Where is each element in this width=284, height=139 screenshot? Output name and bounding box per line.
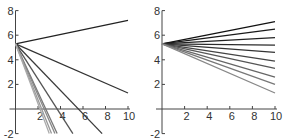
chart-panel-2: -22468246810 <box>150 5 282 139</box>
y-tick-label: 6 <box>154 29 160 41</box>
y-tick-label: 8 <box>154 5 160 17</box>
series-line1 <box>16 20 129 43</box>
y-tick-label: 8 <box>7 5 13 17</box>
x-tick-label: 8 <box>104 110 110 122</box>
x-tick-label: 4 <box>206 110 212 122</box>
y-tick-label: -2 <box>150 128 160 139</box>
series-line6 <box>162 44 275 61</box>
y-tick-label: -2 <box>4 128 14 139</box>
y-tick-label: 4 <box>154 54 160 66</box>
x-tick-label: 10 <box>123 110 135 122</box>
chart-panel-1: -22468246810 <box>4 5 135 139</box>
y-tick-label: 6 <box>7 29 13 41</box>
x-tick-label: 2 <box>184 110 190 122</box>
x-tick-label: 6 <box>229 110 235 122</box>
x-tick-label: 10 <box>270 110 282 122</box>
y-tick-label: 4 <box>7 54 13 66</box>
series-line2 <box>162 29 275 44</box>
chart-canvas: -22468246810-22468246810 <box>0 0 284 139</box>
y-tick-label: 2 <box>154 78 160 90</box>
y-tick-label: 2 <box>7 78 13 90</box>
series-line8 <box>162 44 275 77</box>
x-tick-label: 8 <box>251 110 257 122</box>
